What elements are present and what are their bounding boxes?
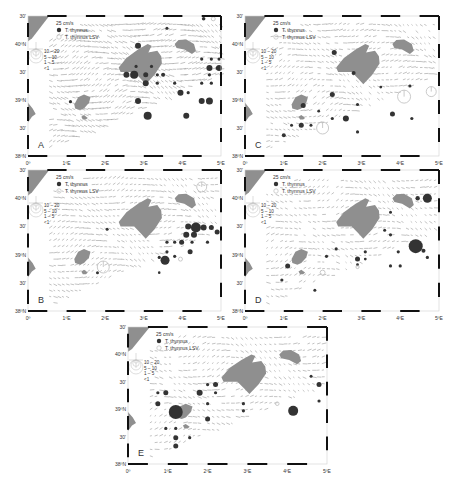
lat-label: 38ºN (232, 153, 243, 159)
legend-size-class: 1 – 5 (261, 214, 272, 219)
legend-size-class: <1 (44, 66, 50, 71)
legend-size-class: 5 – 10 (44, 55, 57, 60)
lon-label: 4ºE (178, 160, 187, 166)
legend-t-thynnus-lsv: T. thynnus LSV (65, 34, 99, 40)
legend-size-class: 10 – 20 (261, 49, 277, 54)
lon-label: 1ºE (280, 315, 289, 321)
t-thynnus-marker (280, 278, 283, 281)
lon-label: 5ºE (435, 315, 444, 321)
legend-size-class: 10 – 20 (44, 49, 60, 54)
t-thynnus-marker (209, 225, 214, 230)
lat-label: 30' (236, 69, 243, 75)
t-thynnus-marker (165, 250, 168, 253)
t-thynnus-marker (188, 436, 191, 439)
t-thynnus-marker (356, 130, 359, 133)
t-thynnus-marker (130, 71, 138, 79)
lat-label: 40ºN (232, 41, 243, 47)
t-thynnus-marker (187, 91, 190, 94)
t-thynnus-marker (183, 232, 189, 238)
lat-label: 30' (19, 223, 26, 229)
panel-letter: D (255, 295, 262, 305)
t-thynnus-marker (200, 82, 203, 85)
lon-label: 3ºE (357, 315, 366, 321)
t-thynnus-marker (173, 255, 176, 258)
lon-label: 1ºE (164, 468, 173, 474)
t-thynnus-marker (355, 257, 360, 262)
legend-size-class: 5 – 10 (44, 209, 57, 214)
t-thynnus-marker (165, 27, 168, 30)
t-thynnus-marker (389, 211, 392, 214)
t-thynnus-marker (173, 443, 178, 448)
legend-t-thynnus-lsv: T. thynnus LSV (282, 188, 316, 194)
t-thynnus-marker (190, 241, 193, 244)
lon-label: 2ºE (101, 315, 110, 321)
legend-size-class: 1 – 5 (144, 371, 155, 376)
lon-label: 4ºE (178, 315, 187, 321)
t-thynnus-marker (156, 73, 159, 76)
t-thynnus-marker (201, 225, 207, 231)
lat-label: 39ºN (15, 252, 26, 258)
t-thynnus-marker (134, 65, 137, 68)
t-thynnus-marker (352, 71, 356, 75)
t-thynnus-marker (390, 112, 395, 117)
panel-letter: A (38, 140, 44, 150)
lat-label: 30' (236, 167, 243, 173)
legend-t-thynnus: T. thynnus (65, 181, 88, 187)
t-thynnus-marker (399, 264, 402, 267)
t-thynnus-marker (158, 256, 161, 259)
lat-label: 30' (119, 324, 126, 330)
t-thynnus-marker (216, 66, 219, 69)
t-thynnus-marker (299, 123, 304, 128)
t-thynnus-marker (415, 196, 419, 200)
t-thynnus-marker (389, 233, 392, 236)
t-thynnus-marker (409, 239, 423, 253)
t-thynnus-marker (206, 402, 209, 405)
t-thynnus-marker (161, 256, 170, 265)
t-thynnus-marker (317, 382, 322, 387)
t-thynnus-marker (332, 50, 337, 55)
lon-label: 0º (126, 468, 131, 474)
t-thynnus-marker (343, 115, 349, 121)
t-thynnus-marker (185, 223, 191, 229)
legend-size-class: 10 – 20 (261, 203, 277, 208)
t-thynnus-marker (191, 232, 197, 238)
legend-t-thynnus-lsv: T. thynnus LSV (165, 345, 199, 351)
lon-label: 3ºE (140, 315, 149, 321)
legend-speed-scale: 25 cm/s (56, 20, 74, 26)
lon-label: 1ºE (280, 160, 289, 166)
t-thynnus-marker (173, 82, 176, 85)
figure: 25 cm/sT. thynnusT. thynnus LSV10 – 205 … (0, 0, 455, 479)
t-thynnus-marker (364, 250, 367, 253)
legend-speed-scale: 25 cm/s (273, 174, 291, 180)
panel-b: 25 cm/sT. thynnusT. thynnus LSV10 – 205 … (15, 167, 226, 321)
t-thynnus-marker (206, 65, 212, 71)
t-thynnus-marker (290, 124, 293, 127)
t-thynnus-marker (309, 124, 312, 127)
t-thynnus-marker (200, 58, 203, 61)
lat-label: 30' (119, 379, 126, 385)
legend-t-thynnus: T. thynnus (65, 27, 88, 33)
lon-label: 2ºE (319, 315, 328, 321)
panel-c: 25 cm/sT. thynnusT. thynnus LSV10 – 205 … (232, 13, 444, 166)
lon-label: 0º (26, 315, 31, 321)
t-thynnus-marker (158, 271, 161, 274)
t-thynnus-marker (96, 271, 99, 274)
t-thynnus-marker (210, 82, 213, 85)
legend-speed-scale: 25 cm/s (56, 174, 74, 180)
lon-label: 2ºE (319, 160, 328, 166)
t-thynnus-marker (205, 417, 210, 422)
lat-label: 40ºN (115, 351, 126, 357)
lon-label: 5ºE (217, 315, 226, 321)
t-thynnus-marker (288, 406, 298, 416)
lon-label: 2ºE (204, 468, 213, 474)
panel-letter: C (255, 140, 262, 150)
lon-label: 4ºE (396, 160, 405, 166)
t-thynnus-marker (173, 435, 178, 440)
t-thynnus-marker (144, 112, 152, 120)
t-thynnus-marker (183, 113, 189, 119)
lat-label: 30' (236, 223, 243, 229)
t-thynnus-marker (210, 58, 213, 61)
t-thynnus-marker (174, 427, 177, 430)
lon-label: 3ºE (140, 160, 149, 166)
lat-label: 30' (236, 13, 243, 19)
